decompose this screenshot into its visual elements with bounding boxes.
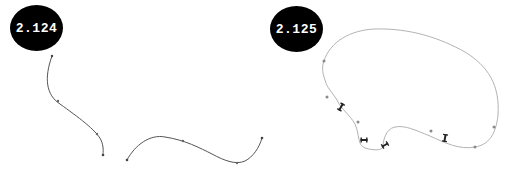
curve-point xyxy=(51,55,53,57)
handle-marker xyxy=(442,134,448,143)
curve-point xyxy=(236,162,238,164)
control-point xyxy=(323,60,326,63)
curve-point xyxy=(126,159,129,162)
closed-loop-curve xyxy=(323,29,499,150)
curve-point xyxy=(96,133,98,135)
handle-marker xyxy=(361,138,368,143)
figure-2-125 xyxy=(323,29,499,150)
control-point xyxy=(474,146,477,149)
control-point xyxy=(326,96,329,99)
control-point xyxy=(493,126,496,129)
wave-curve xyxy=(127,137,262,163)
control-point xyxy=(357,121,360,124)
curve-point xyxy=(102,154,105,157)
curve-point xyxy=(182,140,184,142)
figure-2-124 xyxy=(47,55,263,164)
s-curve xyxy=(47,56,103,155)
curve-point xyxy=(261,137,264,140)
control-point xyxy=(430,130,433,133)
diagram-canvas xyxy=(0,0,510,174)
curve-point xyxy=(57,100,59,102)
